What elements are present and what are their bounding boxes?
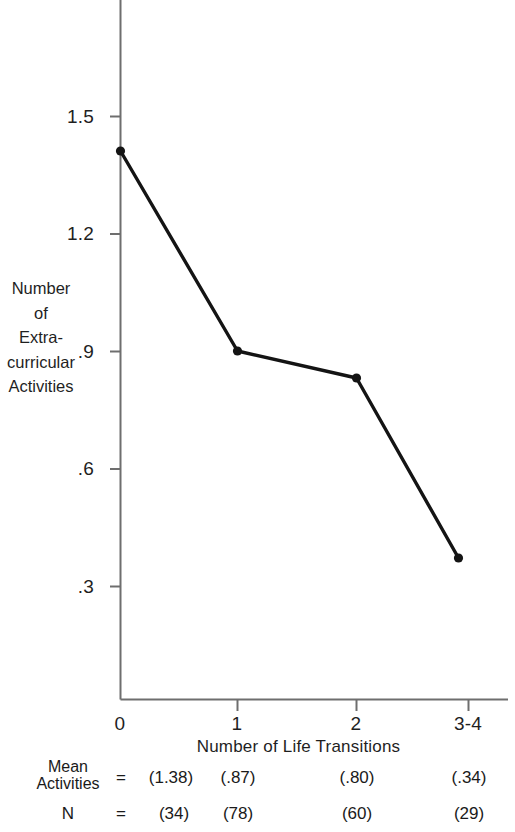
- annotation-row-label-mean: Mean Activities: [22, 758, 114, 792]
- annotation-value-mean-0: (1.38): [133, 768, 209, 788]
- y-tick-label-1_2: 1.2: [36, 224, 94, 243]
- annotation-label-line-2: Activities: [36, 775, 99, 792]
- data-point-0: [116, 146, 125, 155]
- x-axis-title: Number of Life Transitions: [0, 737, 515, 757]
- data-point-markers: [116, 146, 463, 562]
- y-axis-title-line-2: of: [2, 301, 80, 326]
- annotation-value-n-3: (29): [431, 804, 507, 824]
- y-tick-label-1_5: 1.5: [36, 107, 94, 126]
- y-axis-title-line-4: curricular: [2, 350, 80, 375]
- data-line-mean-activities: [121, 151, 459, 558]
- annotation-label-n: N: [62, 804, 74, 823]
- annotation-equals-n: =: [116, 804, 126, 824]
- annotation-row-n: N = (34) (78) (60) (29): [0, 798, 515, 832]
- annotation-row-label-n: N: [22, 804, 114, 824]
- y-axis-title: Number of Extra- curricular Activities: [2, 276, 80, 399]
- x-tick-label-1: 1: [202, 714, 272, 734]
- x-axis-ticks: [238, 699, 469, 711]
- x-tick-label-2: 2: [321, 714, 391, 734]
- data-point-1: [233, 346, 242, 355]
- y-axis-title-line-5: Activities: [2, 374, 80, 399]
- x-tick-label-3-4: 3-4: [433, 714, 503, 734]
- annotation-value-mean-1: (.87): [200, 768, 276, 788]
- data-point-3: [454, 553, 463, 562]
- annotation-value-mean-3: (.34): [431, 768, 507, 788]
- data-point-2: [352, 373, 361, 382]
- x-tick-label-0: 0: [85, 714, 155, 734]
- annotation-value-mean-2: (.80): [319, 768, 395, 788]
- y-axis-ticks: [110, 117, 121, 587]
- annotation-value-n-2: (60): [319, 804, 395, 824]
- annotation-row-mean-activities: Mean Activities = (1.38) (.87) (.80) (.3…: [0, 760, 515, 798]
- y-tick-label-0_3: .3: [36, 577, 94, 596]
- annotation-label-line-1: Mean: [48, 758, 88, 775]
- annotation-equals-mean: =: [116, 768, 126, 788]
- annotation-value-n-1: (78): [200, 804, 276, 824]
- annotation-table: Mean Activities = (1.38) (.87) (.80) (.3…: [0, 760, 515, 832]
- figure-container: 1.5 1.2 .9 .6 .3 Number of Extra- curric…: [0, 0, 515, 832]
- y-axis-title-line-1: Number: [2, 276, 80, 301]
- y-tick-label-0_6: .6: [36, 459, 94, 478]
- y-axis-title-line-3: Extra-: [2, 325, 80, 350]
